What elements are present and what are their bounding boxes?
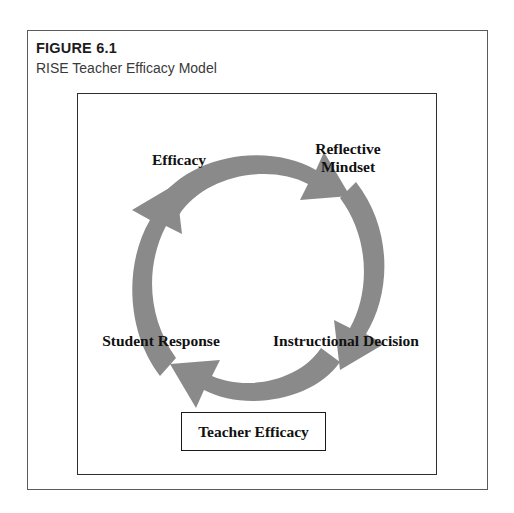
figure-caption: FIGURE 6.1 RISE Teacher Efficacy Model [36,40,416,78]
teacher-efficacy-box: Teacher Efficacy [181,412,326,451]
figure-number: FIGURE 6.1 [36,40,416,57]
figure-title: RISE Teacher Efficacy Model [36,59,416,78]
node-label-reflective-line1: Reflective [288,140,408,158]
node-label-instructional-decision: Instructional Decision [256,332,436,350]
node-label-reflective-mindset: Reflective Mindset [288,140,408,176]
figure-root: FIGURE 6.1 RISE Teacher Efficacy Model E… [0,0,514,513]
node-label-reflective-line2: Mindset [288,158,408,176]
node-label-efficacy: Efficacy [124,151,234,169]
arrow-bottom-icon [170,348,340,408]
node-label-student-response: Student Response [86,332,236,350]
teacher-efficacy-label: Teacher Efficacy [198,423,309,441]
diagram-box: Efficacy Reflective Mindset Instructiona… [77,93,437,475]
